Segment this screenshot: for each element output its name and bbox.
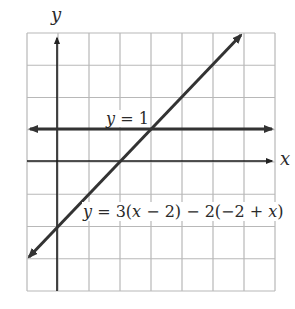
coordinate-graph: y x y = 1 y = 3(x − 2) − 2(−2 + x) <box>0 0 295 309</box>
line2-label-part3: ) <box>277 202 283 221</box>
grid <box>27 33 275 291</box>
line2-label-x1: x <box>132 202 141 221</box>
y-axis-label: y <box>50 4 62 25</box>
x-axis-label: x <box>280 148 290 169</box>
line2-label-part2: − 2) − 2(−2 + <box>141 202 268 221</box>
line2-label-part1: = 3( <box>92 202 132 221</box>
line1-label: y = 1 <box>105 109 149 128</box>
line1-label-rest: = 1 <box>115 109 149 128</box>
line2-label-x2: x <box>268 202 277 221</box>
line2-label: y = 3(x − 2) − 2(−2 + x) <box>82 202 284 221</box>
line-y-equals-x-minus-2 <box>29 35 241 257</box>
